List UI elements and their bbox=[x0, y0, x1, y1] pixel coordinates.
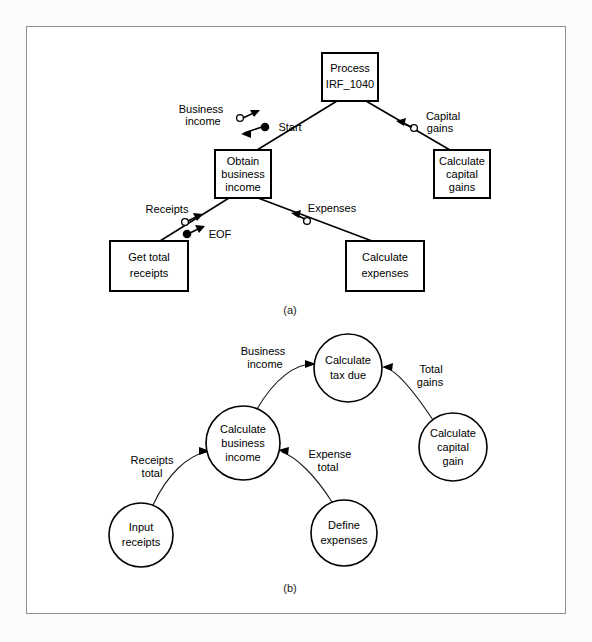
couple-start: Start bbox=[241, 121, 302, 138]
node-calculate-capital-gain[interactable]: Calculate capital gain bbox=[419, 413, 487, 481]
label-total: Total bbox=[419, 363, 442, 375]
node-line-1: Process bbox=[330, 62, 370, 74]
node-line-2: tax due bbox=[330, 369, 366, 381]
flow-business-income-path bbox=[257, 364, 312, 409]
open-circle-marker bbox=[182, 219, 189, 226]
node-calculate-tax-due[interactable]: Calculate tax due bbox=[314, 334, 382, 402]
node-process-irf1040[interactable]: Process IRF_1040 bbox=[322, 53, 378, 101]
label-receipts: Receipts bbox=[146, 203, 189, 215]
node-line-1: Calculate bbox=[362, 251, 408, 263]
node-define-expenses[interactable]: Define expenses bbox=[311, 500, 377, 566]
node-get-total-receipts[interactable]: Get total receipts bbox=[110, 241, 188, 291]
caption-a: (a) bbox=[283, 304, 296, 316]
node-line-2: business bbox=[221, 168, 265, 180]
node-line-2: business bbox=[221, 437, 265, 449]
node-calculate-expenses[interactable]: Calculate expenses bbox=[346, 241, 424, 291]
label-expense: Expense bbox=[309, 448, 352, 460]
node-line-1: Calculate bbox=[430, 427, 476, 439]
couple-business-income: Business income bbox=[179, 103, 260, 127]
node-line-1: Calculate bbox=[439, 155, 485, 167]
label-receipts: Receipts bbox=[131, 454, 174, 466]
couple-receipts: Receipts bbox=[146, 203, 203, 225]
couple-expenses: Expenses bbox=[291, 202, 357, 224]
couple-start-arrowhead bbox=[241, 130, 251, 138]
node-line-3: gain bbox=[443, 455, 464, 467]
flow-business-income: Business income bbox=[241, 345, 316, 409]
node-line-2: receipts bbox=[122, 536, 161, 548]
label-business: Business bbox=[241, 345, 286, 357]
label-business: Business bbox=[179, 103, 224, 115]
label-income: income bbox=[185, 115, 220, 127]
node-line-1: Obtain bbox=[227, 155, 259, 167]
node-line-2: expenses bbox=[361, 267, 409, 279]
label-income: income bbox=[247, 358, 282, 370]
node-input-receipts[interactable]: Input receipts bbox=[109, 503, 173, 567]
label-start: Start bbox=[278, 121, 301, 133]
label-expenses: Expenses bbox=[308, 202, 357, 214]
flow-total-gains: Total gains bbox=[382, 363, 444, 420]
label-gains: gains bbox=[427, 122, 454, 134]
node-line-1: Input bbox=[129, 521, 153, 533]
open-circle-marker bbox=[237, 115, 244, 122]
caption-b: (b) bbox=[283, 582, 296, 594]
node-line-1: Calculate bbox=[325, 354, 371, 366]
node-line-1: Get total bbox=[128, 251, 170, 263]
node-line-1: Calculate bbox=[220, 423, 266, 435]
couple-capital-gains: Capital gains bbox=[396, 110, 460, 134]
label-total: total bbox=[142, 467, 163, 479]
node-line-1: Define bbox=[328, 519, 360, 531]
label-total: total bbox=[318, 461, 339, 473]
diagram-a: Business income Start Capital gains bbox=[110, 53, 490, 316]
node-line-2: capital bbox=[446, 168, 478, 180]
label-eof: EOF bbox=[209, 228, 232, 240]
filled-circle-marker bbox=[261, 123, 268, 130]
node-calculate-capital-gains[interactable]: Calculate capital gains bbox=[434, 150, 490, 198]
node-line-3: income bbox=[225, 181, 260, 193]
flow-total-gains-arrowhead bbox=[382, 363, 393, 371]
open-circle-marker bbox=[411, 125, 418, 132]
node-line-3: gains bbox=[449, 181, 476, 193]
flow-expense-total: Expense total bbox=[278, 447, 351, 502]
filled-circle-marker bbox=[183, 230, 190, 237]
node-line-3: income bbox=[225, 451, 260, 463]
diagram-b: Business income Total gains Receipts tot… bbox=[109, 334, 487, 594]
node-calculate-business-income[interactable]: Calculate business income bbox=[206, 406, 280, 480]
node-line-2: IRF_1040 bbox=[326, 78, 374, 90]
node-line-2: capital bbox=[437, 441, 469, 453]
node-obtain-business-income[interactable]: Obtain business income bbox=[215, 150, 271, 198]
label-gains: gains bbox=[417, 376, 444, 388]
node-line-2: expenses bbox=[320, 534, 368, 546]
flow-receipts-total: Receipts total bbox=[131, 447, 210, 505]
couple-eof: EOF bbox=[183, 225, 231, 240]
figure-canvas: Business income Start Capital gains bbox=[0, 0, 592, 642]
node-line-2: receipts bbox=[130, 267, 169, 279]
label-capital: Capital bbox=[426, 110, 460, 122]
figure-page: Business income Start Capital gains bbox=[0, 0, 592, 642]
